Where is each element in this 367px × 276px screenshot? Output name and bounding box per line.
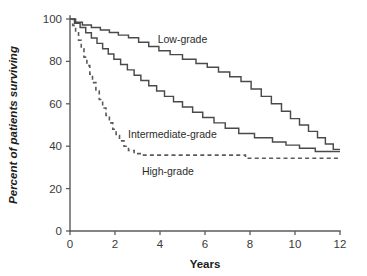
y-tick-label: 60 <box>49 98 62 110</box>
y-tick-label: 20 <box>49 183 62 195</box>
y-axis-title: Percent of patients surviving <box>7 46 19 204</box>
x-tick-label: 4 <box>157 238 164 250</box>
x-tick-label: 2 <box>112 238 118 250</box>
series-label-high-grade: High-grade <box>142 165 194 177</box>
x-tick-label: 10 <box>289 238 302 250</box>
series-label-low-grade: Low-grade <box>158 33 208 45</box>
series-label-intermediate-grade: Intermediate-grade <box>128 128 217 140</box>
x-tick-label: 8 <box>247 238 253 250</box>
survival-chart-figure: 020406080100 024681012 Low-gradeIntermed… <box>0 0 367 276</box>
x-tick-label: 12 <box>334 238 347 250</box>
y-axis-ticks: 020406080100 <box>43 13 70 237</box>
chart-svg: 020406080100 024681012 Low-gradeIntermed… <box>0 0 367 276</box>
x-axis-title: Years <box>190 258 221 270</box>
y-tick-label: 40 <box>49 140 62 152</box>
y-tick-label: 100 <box>43 13 62 25</box>
y-tick-label: 0 <box>56 225 62 237</box>
x-axis-ticks: 024681012 <box>67 231 347 250</box>
x-tick-label: 0 <box>67 238 73 250</box>
x-tick-label: 6 <box>202 238 208 250</box>
y-tick-label: 80 <box>49 55 62 67</box>
